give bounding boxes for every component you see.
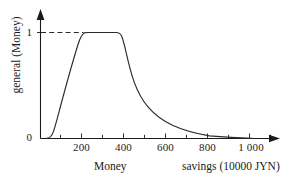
y-axis-title-wrapper: general (Money): [6, 2, 24, 108]
chart-canvas: [0, 0, 297, 184]
x-tick-label-400: 400: [104, 142, 143, 153]
x-tick-label-800: 800: [188, 142, 227, 153]
membership-curve: [47, 32, 253, 138]
y-axis-title: general (Money): [10, 17, 22, 94]
x-tick-label-200: 200: [62, 142, 101, 153]
y-tick-label-0: 0: [18, 132, 32, 143]
x-axis-title: Money: [94, 161, 127, 173]
y-axis-arrow-icon: [37, 9, 45, 20]
x-axis-units-label: savings (10000 JYN): [182, 161, 280, 173]
x-tick-label-1000: 1 000: [229, 142, 273, 153]
x-tick-label-600: 600: [146, 142, 185, 153]
fuzzy-membership-chart: 1 0 200 400 600 800 1 000 Money savings …: [0, 0, 297, 184]
